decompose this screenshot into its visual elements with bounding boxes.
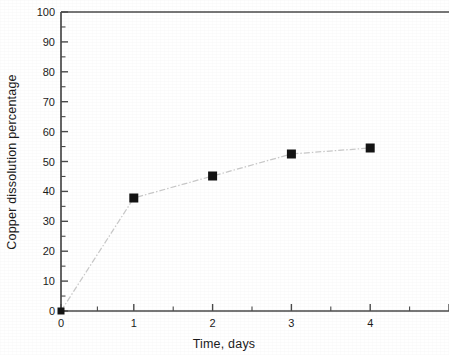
data-point-marker: [129, 194, 138, 203]
y-tick-label: 40: [43, 185, 55, 197]
x-tick-label: 3: [288, 317, 294, 329]
y-axis-title: Copper dissolution percentage: [5, 74, 19, 249]
data-point-marker: [208, 172, 217, 181]
data-point-marker: [366, 144, 375, 153]
y-tick-label: 10: [43, 275, 55, 287]
y-tick-label: 80: [43, 66, 55, 78]
x-tick-label: 2: [210, 317, 216, 329]
y-tick-label: 90: [43, 36, 55, 48]
y-tick-label: 30: [43, 215, 55, 227]
copper-dissolution-chart: 100 90 80 70 60 50 40 30 20 10 0 0 1 2 3…: [0, 0, 449, 355]
y-tick-label: 0: [49, 305, 55, 317]
data-point-marker: [58, 308, 65, 315]
data-point-marker: [287, 150, 296, 159]
x-tick-label: 4: [367, 317, 373, 329]
x-axis-title: Time, days: [193, 337, 256, 351]
y-tick-label: 60: [43, 126, 55, 138]
chart-canvas: 100 90 80 70 60 50 40 30 20 10 0 0 1 2 3…: [0, 0, 449, 355]
x-tick-label: 0: [58, 317, 64, 329]
x-tick-label: 1: [131, 317, 137, 329]
y-tick-label: 100: [37, 6, 55, 18]
y-tick-label: 70: [43, 96, 55, 108]
y-tick-label: 20: [43, 245, 55, 257]
chart-background: [0, 0, 449, 355]
y-tick-label: 50: [43, 156, 55, 168]
